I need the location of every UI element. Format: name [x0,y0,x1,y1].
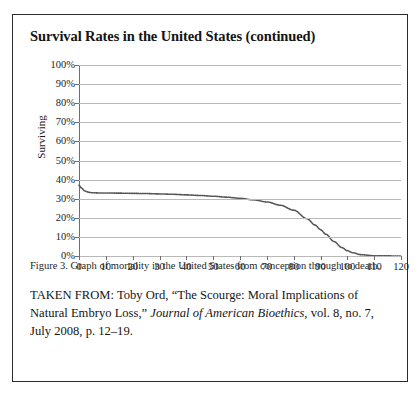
x-axis-tick [401,256,402,260]
y-axis-tick-label: 90% [33,79,75,90]
y-axis-tick-label: 40% [33,175,75,186]
figure-caption: Figure 3. Graph of mortality in the Unit… [30,259,396,273]
y-axis-tick-label: 100% [33,60,75,71]
y-axis-tick [75,65,79,66]
y-axis-tick-label: 60% [33,136,75,147]
figure-frame: Survival Rates in the United States (con… [12,14,408,382]
y-axis-tick [75,141,79,142]
y-axis-tick [75,218,79,219]
gridline [79,180,401,181]
y-axis-tick [75,122,79,123]
figure-title: Survival Rates in the United States (con… [30,28,315,45]
y-axis-tick-label: 20% [33,213,75,224]
gridline [79,161,401,162]
figure-page: Survival Rates in the United States (con… [0,0,420,394]
gridline [79,218,401,219]
y-axis-tick-labels: 0%10%20%30%40%50%60%70%80%90%100% [27,65,75,256]
y-axis-tick-label: 10% [33,232,75,243]
y-axis-tick-label: 50% [33,156,75,167]
y-axis-tick [75,161,79,162]
gridline [79,199,401,200]
plot-area [79,65,401,256]
y-axis-tick [75,237,79,238]
y-axis-tick [75,180,79,181]
gridline [79,84,401,85]
gridline [79,141,401,142]
gridline [79,65,401,66]
y-axis-tick [75,84,79,85]
figure-source: TAKEN FROM: Toby Ord, “The Scourge: Mora… [30,287,392,341]
y-axis-tick-label: 70% [33,117,75,128]
source-journal: Journal of American Bioethics [150,306,304,320]
y-axis-tick [75,199,79,200]
gridline [79,237,401,238]
y-axis-tick [75,103,79,104]
gridline [79,103,401,104]
y-axis-tick-label: 30% [33,194,75,205]
gridline [79,122,401,123]
y-axis-tick-label: 80% [33,98,75,109]
